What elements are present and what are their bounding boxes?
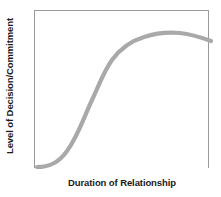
commitment-curve-path — [37, 33, 211, 167]
sigmoid-curve-svg — [0, 0, 221, 197]
y-axis-label: Level of Decision/Commitment — [2, 2, 18, 170]
chart-figure: Level of Decision/Commitment Duration of… — [0, 0, 221, 197]
x-axis-label: Duration of Relationship — [34, 177, 210, 188]
